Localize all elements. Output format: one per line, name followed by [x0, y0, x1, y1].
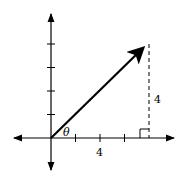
- right-angle-marker: [140, 129, 149, 138]
- vector-diagram: θ 4 4: [0, 0, 186, 176]
- vertical-leg-label: 4: [154, 93, 161, 106]
- vector-arrow: [51, 49, 142, 138]
- angle-label: θ: [63, 126, 70, 139]
- x-tick-label: 4: [96, 146, 103, 159]
